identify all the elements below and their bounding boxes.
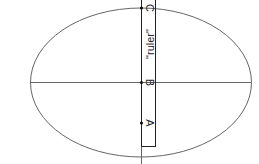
label-a: A bbox=[144, 119, 156, 127]
ellipse-ruler-diagram: C B A "ruler" bbox=[0, 0, 259, 164]
point-b bbox=[140, 81, 143, 84]
label-c: C bbox=[144, 4, 156, 12]
point-c bbox=[140, 6, 143, 9]
point-a bbox=[140, 121, 143, 124]
label-b: B bbox=[144, 79, 156, 86]
ruler-label: "ruler" bbox=[144, 29, 156, 59]
